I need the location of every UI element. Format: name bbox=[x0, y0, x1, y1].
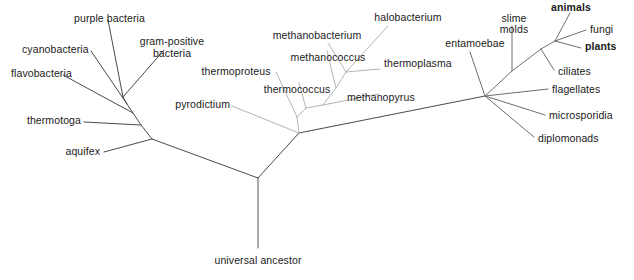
branch-thermotoga bbox=[84, 122, 141, 125]
tip-label-fungi: fungi bbox=[590, 24, 613, 36]
branch-ciliates bbox=[541, 49, 554, 70]
archaea-trunk bbox=[258, 133, 299, 178]
bacteria-spine-1 bbox=[141, 125, 152, 139]
tip-label-methanobacterium: methanobacterium bbox=[258, 30, 376, 42]
branch-pyrodictium bbox=[232, 106, 299, 133]
tip-label-thermoproteus: thermoproteus bbox=[190, 66, 282, 78]
archaea-spine-2 bbox=[297, 108, 306, 117]
tip-label-pyrodictium: pyrodictium bbox=[162, 99, 230, 111]
branch-entamoebae bbox=[470, 52, 485, 96]
tip-label-slime-molds-line2: molds bbox=[496, 24, 532, 36]
tip-label-thermotoga: thermotoga bbox=[0, 115, 81, 127]
branch-purple-bacteria bbox=[108, 20, 123, 97]
tip-label-methanococcus: methanococcus bbox=[280, 52, 376, 64]
branch-aquifex bbox=[104, 139, 152, 152]
bacteria-spine-2 bbox=[133, 113, 141, 125]
tip-label-halobacterium: halobacterium bbox=[368, 12, 448, 24]
tip-label-entamoebae: entamoebae bbox=[436, 38, 514, 50]
tip-label-plants: plants bbox=[585, 41, 617, 53]
branch-cyanobacteria bbox=[91, 51, 127, 104]
branch-diplomonads bbox=[485, 96, 534, 137]
euk-spine-2 bbox=[512, 49, 541, 71]
branch-flagellates bbox=[485, 89, 548, 96]
tip-label-animals: animals bbox=[543, 2, 599, 14]
branch-plants bbox=[555, 41, 581, 48]
tip-label-gram-positive-bacteria-line1: gram-positive bbox=[137, 36, 207, 48]
tip-label-microsporidia: microsporidia bbox=[549, 110, 613, 122]
tip-label-cyanobacteria: cyanobacteria bbox=[22, 44, 89, 56]
tip-label-flavobacteria: flavobacteria bbox=[11, 68, 72, 80]
branch-microsporidia bbox=[485, 96, 545, 115]
tip-label-gram-positive-bacteria-line2: bacteria bbox=[137, 48, 207, 60]
archaea-spine-3 bbox=[306, 105, 323, 108]
phylogenetic-tree-figure: flavobacteria cyanobacteria purple bacte… bbox=[0, 0, 634, 280]
tip-label-ciliates: ciliates bbox=[558, 66, 591, 78]
euk-spine-1 bbox=[485, 71, 512, 96]
tip-label-aquifex: aquifex bbox=[30, 146, 100, 158]
tip-label-methanopyrus: methanopyrus bbox=[347, 92, 415, 104]
tip-label-thermococcus: thermococcus bbox=[252, 84, 342, 96]
euk-spine-3 bbox=[541, 41, 555, 49]
branch-thermoplasma bbox=[346, 69, 380, 72]
tip-label-flagellates: flagellates bbox=[552, 84, 600, 96]
tip-label-diplomonads: diplomonads bbox=[538, 133, 599, 145]
bacteria-trunk bbox=[152, 139, 258, 178]
tip-label-universal-ancestor: universal ancestor bbox=[198, 255, 318, 267]
tip-label-purple-bacteria: purple bacteria bbox=[74, 13, 145, 25]
tip-label-thermoplasma: thermoplasma bbox=[384, 58, 452, 70]
archaea-spine-1 bbox=[297, 117, 299, 133]
